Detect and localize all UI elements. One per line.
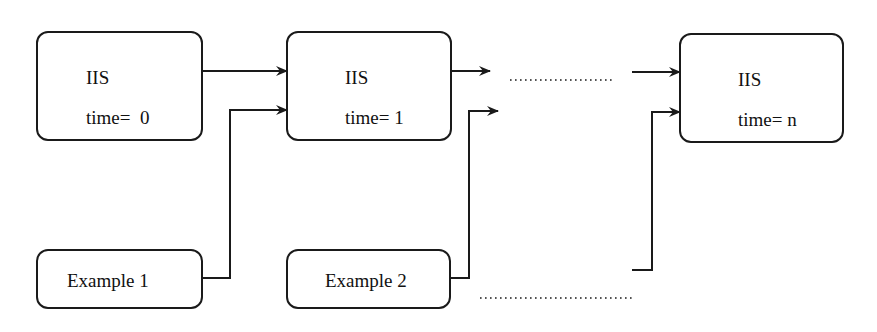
iis-title: IIS: [738, 70, 761, 89]
arrow-ex1-to-iis1: [202, 110, 287, 278]
iis-node-time-0: IIS time= 0: [36, 31, 203, 141]
iis-title: IIS: [86, 68, 109, 87]
iis-time-label: time= 1: [345, 108, 404, 127]
example-2-label: Example 2: [325, 271, 407, 290]
iis-time-label: time= n: [738, 110, 797, 129]
example-1-node: Example 1: [36, 249, 203, 309]
iis-node-time-n: IIS time= n: [679, 33, 844, 143]
example-1-label: Example 1: [67, 271, 149, 290]
arrow-ex2-out: [450, 111, 498, 278]
iis-title: IIS: [345, 68, 368, 87]
iis-node-time-1: IIS time= 1: [286, 31, 452, 141]
arrow-to-iisn-bottom: [632, 112, 680, 270]
iis-time-label: time= 0: [86, 108, 150, 127]
example-2-node: Example 2: [286, 249, 451, 309]
